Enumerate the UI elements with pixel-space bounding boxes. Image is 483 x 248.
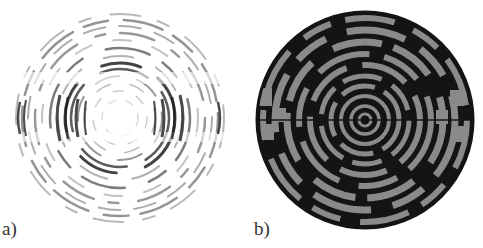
panel-label-b: b) (254, 218, 270, 240)
phase-map-image (240, 0, 483, 248)
panel-a: a) (0, 0, 240, 248)
panel-label-a: a) (2, 218, 17, 240)
ring-pattern-image (0, 0, 240, 248)
panel-b: b) (240, 0, 483, 248)
